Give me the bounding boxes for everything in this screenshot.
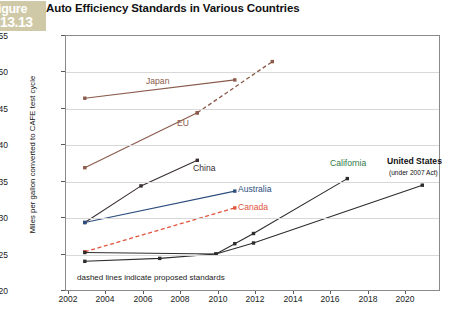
y-tick-30: 30 bbox=[0, 213, 8, 223]
y-tick-20: 20 bbox=[0, 286, 8, 296]
y-tick-50: 50 bbox=[0, 67, 8, 77]
gridline-40 bbox=[66, 145, 439, 146]
y-tick-40: 40 bbox=[0, 140, 8, 150]
x-tick-2016: 2016 bbox=[310, 294, 350, 304]
y-tick-45: 45 bbox=[0, 104, 8, 114]
series-label-japan: Japan bbox=[146, 76, 169, 86]
series-label-australia: Australia bbox=[238, 184, 271, 194]
series-label-china: China bbox=[193, 163, 215, 173]
gridline-30 bbox=[66, 218, 439, 219]
x-tick-2014: 2014 bbox=[273, 294, 313, 304]
x-tick-2012: 2012 bbox=[235, 294, 275, 304]
x-tick-2010: 2010 bbox=[198, 294, 238, 304]
gridline-25 bbox=[66, 255, 439, 256]
gridline-35 bbox=[66, 182, 439, 183]
gridline-50 bbox=[66, 72, 439, 73]
gridline-45 bbox=[66, 109, 439, 110]
x-tick-2004: 2004 bbox=[85, 294, 125, 304]
series-label-canada: Canada bbox=[238, 202, 268, 212]
y-axis-title: Miles per gallon converted to CAFE test … bbox=[28, 55, 37, 255]
series-plot-svg bbox=[66, 36, 441, 292]
y-tick-25: 25 bbox=[0, 250, 8, 260]
x-tick-2006: 2006 bbox=[123, 294, 163, 304]
y-tick-55: 55 bbox=[0, 31, 8, 41]
dashed-lines-note: dashed lines indicate proposed standards bbox=[77, 273, 225, 282]
plot-area: dashed lines indicate proposed standards bbox=[65, 35, 440, 291]
series-label-united-states: United States bbox=[387, 156, 442, 166]
x-tick-2008: 2008 bbox=[160, 294, 200, 304]
x-tick-2020: 2020 bbox=[385, 294, 425, 304]
series-label-eu: EU bbox=[177, 118, 189, 128]
x-tick-2018: 2018 bbox=[348, 294, 388, 304]
series-label-california: California bbox=[330, 158, 366, 168]
y-tick-35: 35 bbox=[0, 177, 8, 187]
chart-container: Miles per gallon converted to CAFE test … bbox=[0, 0, 456, 310]
series-sublabel-united-states: (under 2007 Act) bbox=[389, 169, 438, 176]
x-tick-2002: 2002 bbox=[48, 294, 88, 304]
